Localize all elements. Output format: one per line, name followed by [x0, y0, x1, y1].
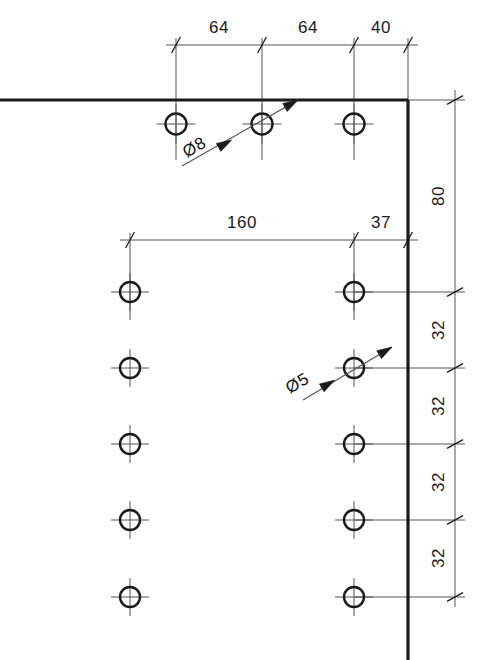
dimension-label-64-h0-0: 64	[209, 18, 229, 37]
cad-drawing-svg: 646440160378032323232 Ø8Ø5	[0, 0, 487, 660]
diameter-callout-text-layer: Ø8Ø5	[179, 133, 312, 397]
dimension-label-32-v2: 32	[429, 396, 448, 416]
leader-arrowhead-far-dia-8	[283, 100, 298, 111]
object-lines-layer	[0, 100, 408, 660]
technical-drawing-canvas: 646440160378032323232 Ø8Ø5	[0, 0, 487, 660]
dimension-label-37-h1-1: 37	[371, 213, 391, 232]
dimension-lines-layer	[120, 37, 463, 607]
dimension-label-40-h0-2: 40	[371, 18, 391, 37]
leader-arrowhead-near-dia-8	[216, 140, 231, 151]
dimension-label-32-v1: 32	[429, 320, 448, 340]
leader-lines-layer	[182, 100, 392, 400]
dimension-label-32-v4: 32	[429, 548, 448, 568]
dimension-label-80-v0: 80	[429, 186, 448, 206]
diameter-callout-dia-8: Ø8	[179, 133, 209, 161]
leader-arrowhead-far-dia-5	[377, 347, 392, 359]
dimension-label-64-h0-1: 64	[298, 18, 318, 37]
dimension-label-32-v3: 32	[429, 472, 448, 492]
dimension-label-160-h1-0: 160	[227, 213, 257, 232]
extension-lines-layer	[130, 38, 465, 597]
leader-line-dia-5	[303, 347, 392, 400]
hole-symbols-layer	[111, 105, 374, 617]
leader-arrowhead-near-dia-5	[319, 380, 334, 392]
diameter-callout-dia-5: Ø5	[282, 369, 312, 397]
